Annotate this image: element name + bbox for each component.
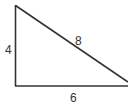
bottom-side-label: 6 xyxy=(70,91,77,105)
left-side-label: 4 xyxy=(5,43,12,57)
hypotenuse xyxy=(16,6,129,83)
hypotenuse-label: 8 xyxy=(75,34,82,48)
triangle-diagram: 4 8 6 xyxy=(0,0,128,106)
